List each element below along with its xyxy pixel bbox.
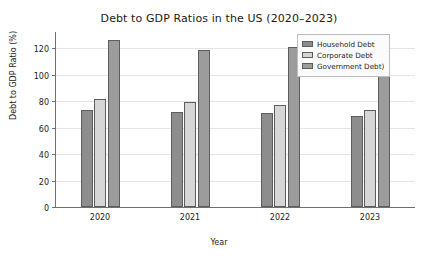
y-tick-mark	[52, 128, 55, 129]
bar	[198, 50, 210, 207]
y-tick-label: 120	[34, 45, 49, 54]
bar	[274, 105, 286, 207]
y-tick-mark	[52, 207, 55, 208]
legend-label: Corporate Debt	[317, 51, 373, 60]
chart-legend: Household DebtCorporate DebtGovernment D…	[297, 34, 390, 77]
y-tick-mark	[52, 181, 55, 182]
x-axis-spine	[55, 207, 415, 208]
y-tick-label: 40	[39, 151, 49, 160]
y-tick-label: 100	[34, 71, 49, 80]
y-axis-label: Debt to GDP Ratio (%)	[9, 31, 18, 120]
y-tick-mark	[52, 75, 55, 76]
x-tick-label: 2022	[270, 213, 290, 222]
x-tick-label: 2023	[360, 213, 380, 222]
x-tick-label: 2021	[180, 213, 200, 222]
legend-item[interactable]: Corporate Debt	[302, 50, 384, 60]
bar	[261, 113, 273, 207]
legend-item[interactable]: Government Debt)	[302, 61, 384, 71]
y-tick-label: 20	[39, 177, 49, 186]
y-tick-label: 0	[44, 204, 49, 213]
bar	[81, 110, 93, 207]
legend-swatch-icon	[302, 41, 313, 47]
x-tick-label: 2020	[90, 213, 110, 222]
y-tick-mark	[52, 154, 55, 155]
y-tick-mark	[52, 101, 55, 102]
bar	[351, 116, 363, 207]
bar	[171, 112, 183, 207]
bar	[364, 110, 376, 207]
legend-label: Household Debt	[317, 40, 375, 49]
bar	[108, 40, 120, 207]
y-tick-label: 80	[39, 98, 49, 107]
chart-title: Debt to GDP Ratios in the US (2020–2023)	[0, 12, 438, 25]
legend-label: Government Debt)	[317, 62, 384, 71]
x-axis-label: Year	[0, 238, 438, 247]
bar	[94, 99, 106, 208]
legend-item[interactable]: Household Debt	[302, 39, 384, 49]
legend-swatch-icon	[302, 52, 313, 58]
bar	[184, 102, 196, 207]
y-tick-label: 60	[39, 124, 49, 133]
chart-figure: Debt to GDP Ratios in the US (2020–2023)…	[0, 0, 438, 267]
y-tick-mark	[52, 48, 55, 49]
legend-swatch-icon	[302, 63, 313, 69]
y-axis-spine	[55, 32, 56, 208]
